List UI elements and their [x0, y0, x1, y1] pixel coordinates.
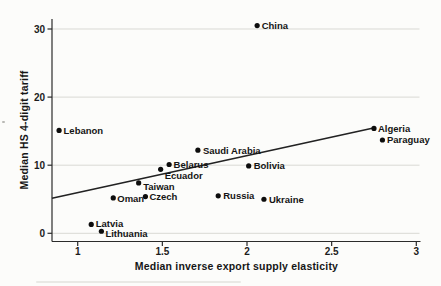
point-label-lithuania: Lithuania: [105, 228, 148, 239]
point-label-oman: Oman: [117, 193, 144, 204]
y-tick-label-30: 30: [34, 24, 46, 35]
x-tick-label-3: 3: [414, 246, 420, 257]
data-point-taiwan: [136, 180, 141, 185]
y-tick-label-0: 0: [39, 228, 45, 239]
data-point-china: [255, 23, 260, 28]
data-point-lithuania: [99, 229, 104, 234]
x-tick-label-2-5: 2.5: [325, 246, 339, 257]
trend-line: [52, 128, 372, 198]
x-tick-label-1: 1: [75, 246, 81, 257]
data-point-czech: [143, 194, 148, 199]
point-label-paraguay: Paraguay: [387, 134, 430, 145]
data-point-paraguay: [380, 137, 385, 142]
point-label-czech: Czech: [149, 191, 177, 202]
data-point-bolivia: [246, 163, 251, 168]
point-label-russia: Russia: [223, 190, 255, 201]
data-point-latvia: [89, 222, 94, 227]
data-point-belarus: [167, 162, 172, 167]
data-point-algeria: [371, 126, 376, 131]
scan-artifact-speck: [2, 121, 5, 123]
scan-artifact-streak: [36, 281, 241, 283]
plot-area: 010203011.522.53LebanonLatviaLithuaniaOm…: [0, 0, 441, 286]
point-label-ukraine: Ukraine: [269, 194, 304, 205]
x-tick-label-1-5: 1.5: [155, 246, 169, 257]
x-axis-title: Median inverse export supply elasticity: [52, 260, 421, 272]
point-label-ecuador: Ecuador: [165, 170, 203, 181]
data-point-russia: [216, 193, 221, 198]
point-label-saudi-arabia: Saudi Arabia: [203, 145, 261, 156]
point-label-china: China: [262, 20, 289, 31]
point-label-belarus: Belarus: [174, 159, 209, 170]
point-label-algeria: Algeria: [378, 123, 411, 134]
data-point-oman: [111, 195, 116, 200]
y-axis-title: Median HS 4-digit tariff: [18, 70, 30, 189]
y-tick-label-10: 10: [34, 160, 46, 171]
data-point-saudi-arabia: [195, 148, 200, 153]
y-tick-label-20: 20: [34, 92, 46, 103]
data-point-ukraine: [261, 197, 266, 202]
data-point-ecuador: [158, 167, 163, 172]
point-label-lebanon: Lebanon: [64, 125, 104, 136]
data-point-lebanon: [56, 128, 61, 133]
x-tick-label-2: 2: [244, 246, 250, 257]
scatter-chart-figure: 010203011.522.53LebanonLatviaLithuaniaOm…: [0, 0, 441, 286]
point-label-bolivia: Bolivia: [254, 160, 286, 171]
